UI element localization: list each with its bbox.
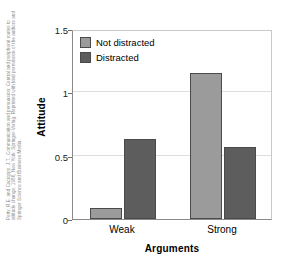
- legend-label: Not distracted: [96, 37, 155, 48]
- x-tick-label-weak: Weak: [109, 224, 134, 235]
- legend-item: Not distracted: [80, 36, 155, 49]
- y-axis-tick-labels: 00.511.5: [44, 30, 68, 220]
- legend-swatch-icon: [80, 37, 91, 48]
- legend-item: Distracted: [80, 51, 155, 64]
- x-tick-label-strong: Strong: [207, 224, 236, 235]
- y-tick-label: 0: [46, 215, 68, 226]
- legend-label: Distracted: [96, 52, 139, 63]
- figure-container: Petty, R.E. and Cacioppo, J.T., Communic…: [0, 0, 288, 266]
- source-credit: Petty, R.E. and Cacioppo, J.T., Communic…: [6, 6, 24, 220]
- y-tick-mark: [68, 30, 72, 31]
- bar-strong-distracted: [224, 147, 256, 219]
- chart-legend: Not distractedDistracted: [80, 36, 155, 64]
- source-credit-text: Petty, R.E. and Cacioppo, J.T., Communic…: [6, 6, 22, 220]
- y-tick-mark: [68, 157, 72, 158]
- y-tick-label: 1: [46, 88, 68, 99]
- x-axis-tick-labels: WeakStrong: [72, 224, 272, 238]
- y-tick-label: 0.5: [46, 151, 68, 162]
- bar-weak-not-distracted: [90, 208, 122, 219]
- y-tick-mark: [68, 93, 72, 94]
- bar-strong-not-distracted: [190, 73, 222, 219]
- y-tick-label: 1.5: [46, 25, 68, 36]
- legend-swatch-icon: [80, 52, 91, 63]
- x-axis-title: Arguments: [72, 243, 272, 254]
- bar-weak-distracted: [124, 139, 156, 219]
- y-tick-mark: [68, 220, 72, 221]
